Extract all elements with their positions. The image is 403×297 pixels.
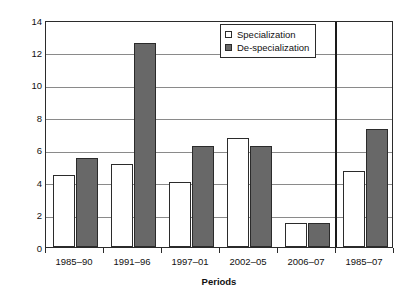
filled-square-icon	[225, 44, 232, 51]
x-tick-label: 2006–07	[288, 256, 325, 268]
x-axis-tick-labels: 1985–901991–961997–012002–052006–071985–…	[45, 256, 393, 270]
chart-legend: Specialization De-specialization	[220, 24, 316, 58]
y-tick-label: 6	[18, 146, 42, 155]
y-tick-label: 8	[18, 114, 42, 123]
x-tick-mark	[393, 248, 394, 253]
x-tick-label: 1997–01	[172, 256, 209, 268]
bars-layer	[46, 22, 392, 247]
legend-item-de-specialization: De-specialization	[225, 41, 309, 54]
x-tick-mark	[277, 248, 278, 253]
y-tick-label: 2	[18, 211, 42, 220]
bar	[169, 182, 191, 247]
legend-label: Specialization	[237, 29, 296, 40]
bar	[308, 223, 330, 247]
bar	[227, 138, 249, 247]
y-tick-label: 10	[18, 81, 42, 90]
y-tick-label: 4	[18, 179, 42, 188]
open-square-icon	[225, 31, 232, 38]
bar	[366, 129, 388, 247]
x-tick-label: 2002–05	[230, 256, 267, 268]
bar	[111, 164, 133, 248]
x-axis-title: Periods	[45, 276, 393, 288]
x-tick-mark	[219, 248, 220, 253]
bar	[285, 223, 307, 247]
x-tick-mark	[335, 248, 336, 253]
x-tick-mark	[45, 248, 46, 253]
bar	[76, 158, 98, 247]
bar	[134, 43, 156, 247]
bar	[53, 175, 75, 247]
bar	[250, 146, 272, 247]
x-axis-ticks	[45, 248, 393, 254]
bar	[192, 146, 214, 247]
plot-area	[45, 21, 393, 248]
bar	[343, 171, 365, 247]
y-tick-label: 0	[18, 244, 42, 253]
y-axis-tick-labels: 02468101214	[18, 21, 42, 248]
legend-item-specialization: Specialization	[225, 28, 309, 41]
y-tick-label: 14	[18, 17, 42, 26]
x-tick-label: 1985–90	[56, 256, 93, 268]
bar-chart: Net changes per year 02468101214 1985–90…	[0, 0, 403, 297]
x-tick-label: 1985–07	[346, 256, 383, 268]
x-tick-mark	[161, 248, 162, 253]
x-tick-label: 1991–96	[114, 256, 151, 268]
x-tick-mark	[103, 248, 104, 253]
y-tick-label: 12	[18, 49, 42, 58]
legend-label: De-specialization	[237, 42, 309, 53]
group-separator	[335, 21, 337, 248]
